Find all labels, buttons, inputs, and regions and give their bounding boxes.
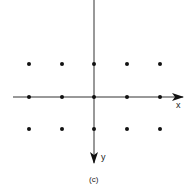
x-axis-label: x	[176, 100, 181, 110]
y-axis-label: y	[101, 152, 106, 162]
figure-caption: (c)	[89, 175, 99, 184]
grid-point	[60, 127, 64, 131]
grid-point	[27, 127, 31, 131]
grid-point	[92, 95, 96, 99]
grid-point	[60, 62, 64, 66]
grid-point	[92, 62, 96, 66]
grid-point	[125, 95, 129, 99]
grid-point	[158, 95, 162, 99]
grid-point	[158, 127, 162, 131]
grid-point	[27, 95, 31, 99]
grid-point	[158, 62, 162, 66]
grid-point	[125, 127, 129, 131]
lattice-diagram: x y (c)	[0, 0, 194, 186]
grid-point	[27, 62, 31, 66]
grid-point	[60, 95, 64, 99]
grid-point	[92, 127, 96, 131]
grid-point	[125, 62, 129, 66]
